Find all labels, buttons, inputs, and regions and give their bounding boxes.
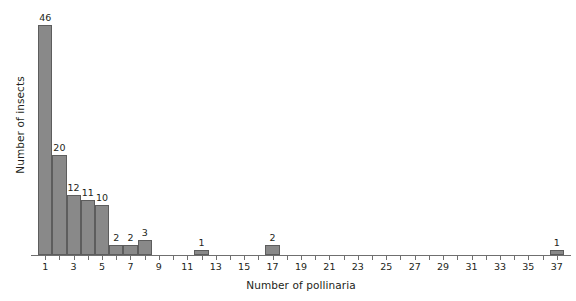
x-axis-tick xyxy=(244,256,245,260)
bar xyxy=(38,25,52,255)
x-axis-tick xyxy=(74,256,75,260)
bar-value-label: 2 xyxy=(253,233,293,243)
bar xyxy=(109,245,123,255)
x-axis-tick xyxy=(514,256,515,260)
x-axis-tick xyxy=(258,256,259,260)
bar xyxy=(67,195,81,255)
x-axis-tick xyxy=(528,256,529,260)
bar xyxy=(52,155,66,255)
x-axis-tick xyxy=(187,256,188,260)
bar xyxy=(138,240,152,255)
bar xyxy=(265,245,279,255)
x-axis-tick xyxy=(45,256,46,260)
x-axis-tick xyxy=(344,256,345,260)
x-axis-tick xyxy=(202,256,203,260)
x-axis-tick-label: 37 xyxy=(537,262,576,272)
x-axis-tick xyxy=(543,256,544,260)
bar xyxy=(81,200,95,255)
bar-value-label: 3 xyxy=(125,228,165,238)
x-axis-tick xyxy=(287,256,288,260)
x-axis-tick xyxy=(486,256,487,260)
x-axis-tick xyxy=(457,256,458,260)
x-axis-tick xyxy=(358,256,359,260)
x-axis-tick xyxy=(59,256,60,260)
x-axis-tick xyxy=(386,256,387,260)
bar xyxy=(123,245,137,255)
x-axis-tick xyxy=(500,256,501,260)
x-axis-tick xyxy=(329,256,330,260)
x-axis-tick xyxy=(88,256,89,260)
x-axis-tick xyxy=(557,256,558,260)
x-axis-tick xyxy=(415,256,416,260)
x-axis-tick xyxy=(216,256,217,260)
x-axis-tick xyxy=(130,256,131,260)
bar xyxy=(550,250,564,255)
x-axis-tick xyxy=(230,256,231,260)
bar-value-label: 1 xyxy=(537,238,576,248)
x-axis-tick xyxy=(102,256,103,260)
x-axis-tick xyxy=(400,256,401,260)
bar-value-label: 10 xyxy=(82,193,122,203)
x-axis-tick xyxy=(372,256,373,260)
x-axis-tick xyxy=(443,256,444,260)
x-axis-tick xyxy=(273,256,274,260)
x-axis-tick xyxy=(145,256,146,260)
x-axis-tick xyxy=(159,256,160,260)
x-axis-tick xyxy=(315,256,316,260)
histogram-chart: Number of insects 4620121110223121 13579… xyxy=(0,0,576,301)
bar-value-label: 46 xyxy=(25,13,65,23)
x-axis-title: Number of pollinaria xyxy=(201,279,401,291)
x-axis-tick xyxy=(116,256,117,260)
y-axis-title: Number of insects xyxy=(14,25,30,225)
x-axis-tick xyxy=(429,256,430,260)
bar-value-label: 20 xyxy=(39,143,79,153)
x-axis-tick xyxy=(173,256,174,260)
bar xyxy=(194,250,208,255)
bar xyxy=(95,205,109,255)
x-axis-tick xyxy=(472,256,473,260)
bar-value-label: 1 xyxy=(182,238,222,248)
x-axis-tick xyxy=(301,256,302,260)
